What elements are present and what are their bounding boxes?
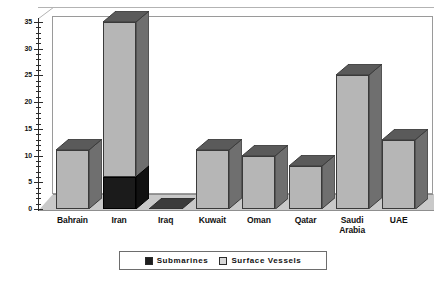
bar-top-face bbox=[289, 155, 335, 166]
x-tick-label-iran: Iran bbox=[95, 216, 144, 226]
y-tick-minor bbox=[36, 86, 41, 87]
y-tick-minor bbox=[36, 166, 41, 167]
y-tick-label-wrap: 30 bbox=[0, 45, 32, 53]
legend-label-surface-vessels: Surface Vessels bbox=[231, 256, 301, 265]
x-tick-label-iraq: Iraq bbox=[141, 216, 190, 226]
y-tick-label-wrap: 5 bbox=[0, 178, 32, 186]
x-tick-label-kuwait: Kuwait bbox=[188, 216, 237, 226]
y-tick-minor bbox=[36, 54, 41, 55]
x-tick-label-qatar: Qatar bbox=[281, 216, 330, 226]
bar-segment-submarines[interactable] bbox=[103, 177, 136, 209]
bar-segment-surface-vessels[interactable] bbox=[382, 140, 415, 209]
y-tick-minor bbox=[36, 198, 41, 199]
legend-item-surface-vessels: Surface Vessels bbox=[219, 256, 301, 265]
y-tick-minor bbox=[36, 38, 41, 39]
y-tick-minor bbox=[36, 107, 41, 108]
y-tick-minor bbox=[36, 145, 41, 146]
bar-segment-surface-vessels[interactable] bbox=[56, 150, 89, 209]
x-tick-label-line: Kuwait bbox=[188, 216, 237, 226]
y-tick-major bbox=[34, 129, 43, 130]
y-tick-major bbox=[34, 156, 43, 157]
y-tick-minor bbox=[36, 140, 41, 141]
bar-top-face bbox=[103, 11, 149, 22]
y-tick-minor bbox=[36, 172, 41, 173]
x-tick-label-line: UAE bbox=[374, 216, 423, 226]
bar-segment-surface-vessels[interactable] bbox=[336, 75, 369, 209]
x-tick-label-saudi-arabia: SaudiArabia bbox=[328, 216, 377, 235]
x-tick-label-line: Iraq bbox=[141, 216, 190, 226]
y-tick-label-wrap: 25 bbox=[0, 71, 32, 79]
x-tick-label-uae: UAE bbox=[374, 216, 423, 226]
bar-saudi-arabia[interactable] bbox=[336, 64, 369, 209]
y-tick-minor bbox=[36, 81, 41, 82]
bar-top-face bbox=[382, 129, 428, 140]
bar-top-face bbox=[242, 145, 288, 156]
x-tick-label-line: Arabia bbox=[328, 226, 377, 236]
y-tick-label: 5 bbox=[6, 178, 32, 185]
bar-bahrain[interactable] bbox=[56, 139, 89, 209]
legend-item-submarines: Submarines bbox=[145, 256, 209, 265]
y-tick-minor bbox=[36, 177, 41, 178]
y-tick-major bbox=[34, 22, 43, 23]
bar-qatar[interactable] bbox=[289, 155, 322, 209]
bar-top-face bbox=[149, 198, 195, 209]
legend-swatch-surface-vessels bbox=[219, 257, 227, 265]
legend-swatch-submarines bbox=[145, 257, 153, 265]
bar-uae[interactable] bbox=[382, 129, 415, 209]
bar-top-face bbox=[56, 139, 102, 150]
y-tick-major bbox=[34, 102, 43, 103]
bar-iraq[interactable] bbox=[149, 198, 182, 209]
y-tick-label: 30 bbox=[6, 45, 32, 52]
y-tick-label-wrap: 20 bbox=[0, 98, 32, 106]
y-tick-minor bbox=[36, 70, 41, 71]
bar-segment-surface-vessels[interactable] bbox=[242, 156, 275, 209]
x-tick-label-oman: Oman bbox=[234, 216, 283, 226]
x-tick-label-line: Iran bbox=[95, 216, 144, 226]
x-tick-label-bahrain: Bahrain bbox=[48, 216, 97, 226]
y-tick-minor bbox=[36, 91, 41, 92]
y-tick-minor bbox=[36, 124, 41, 125]
bar-side-face bbox=[369, 64, 382, 209]
y-tick-label: 20 bbox=[6, 98, 32, 105]
y-tick-minor bbox=[36, 204, 41, 205]
bar-segment-surface-vessels[interactable] bbox=[196, 150, 229, 209]
plot-floor-front-edge bbox=[38, 210, 434, 211]
y-tick-label-wrap: 35 bbox=[0, 18, 32, 26]
y-tick-minor bbox=[36, 27, 41, 28]
plot-frame-top-edge bbox=[38, 7, 434, 8]
chart-canvas: 05101520253035 BahrainIranIraqKuwaitOman… bbox=[0, 0, 445, 281]
bar-segment-surface-vessels[interactable] bbox=[289, 166, 322, 209]
plot-frame-diagonal-edge bbox=[38, 7, 54, 19]
y-tick-label: 15 bbox=[6, 125, 32, 132]
y-tick-minor bbox=[36, 188, 41, 189]
y-tick-minor bbox=[36, 150, 41, 151]
y-tick-minor bbox=[36, 33, 41, 34]
bar-oman[interactable] bbox=[242, 145, 275, 209]
y-tick-minor bbox=[36, 113, 41, 114]
y-tick-label: 10 bbox=[6, 152, 32, 159]
bar-side-face bbox=[415, 129, 428, 209]
y-tick-major bbox=[34, 209, 43, 210]
y-tick-label: 0 bbox=[6, 205, 32, 212]
bar-kuwait[interactable] bbox=[196, 139, 229, 209]
y-tick-minor bbox=[36, 43, 41, 44]
bar-top-face bbox=[336, 64, 382, 75]
y-tick-major bbox=[34, 49, 43, 50]
y-tick-label-wrap: 0 bbox=[0, 205, 32, 213]
y-tick-label-wrap: 15 bbox=[0, 125, 32, 133]
x-tick-label-line: Qatar bbox=[281, 216, 330, 226]
y-tick-label-wrap: 10 bbox=[0, 152, 32, 160]
y-tick-minor bbox=[36, 193, 41, 194]
y-tick-minor bbox=[36, 161, 41, 162]
x-tick-label-line: Oman bbox=[234, 216, 283, 226]
bar-segment-surface-vessels[interactable] bbox=[103, 22, 136, 177]
y-tick-major bbox=[34, 75, 43, 76]
y-tick-minor bbox=[36, 59, 41, 60]
y-tick-minor bbox=[36, 65, 41, 66]
y-tick-label: 35 bbox=[6, 18, 32, 25]
chart-legend: Submarines Surface Vessels bbox=[119, 251, 327, 270]
x-tick-label-line: Bahrain bbox=[48, 216, 97, 226]
bar-iran[interactable] bbox=[103, 11, 136, 209]
y-tick-minor bbox=[36, 134, 41, 135]
bar-top-face bbox=[196, 139, 242, 150]
